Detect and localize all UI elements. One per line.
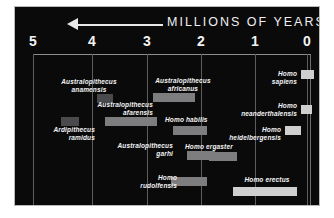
taxon-label: Homo habilis [165,116,237,124]
x-axis-tick-3: 3 [143,33,151,49]
taxon-label: Homo erectus [227,176,307,184]
range-bar [153,93,195,102]
range-bar [61,117,79,126]
taxon-label: Australopithecusafricanus [141,77,225,92]
taxon-label-line1: Homo [215,102,297,110]
x-axis-tick-1: 1 [251,33,259,49]
taxon-label-line1: Ardipithecus [27,126,95,134]
x-axis-tick-4: 4 [88,33,96,49]
taxon-label-line2: sapiens [229,78,297,86]
range-bar [301,105,312,114]
range-bar [209,152,237,161]
x-axis-tick-2: 2 [197,33,205,49]
taxon-label-line1: Homo ergaster [185,143,263,151]
taxon-label: Homosapiens [229,70,297,85]
taxon-label: Australopithecusgarhi [89,142,173,157]
arrow-shaft-icon [77,24,163,26]
taxon-label-line1: Australopithecus [141,77,225,85]
taxon-label-line1: Homo [229,70,297,78]
x-axis-tick-labels: 543210 [15,33,319,53]
taxon-label-line1: Homo [109,174,177,182]
taxon-label-line2: afarensis [69,109,153,117]
chart-header: MILLIONS OF YEARS AGO [15,11,319,33]
taxon-label-line2: garhi [89,150,173,158]
plot-area: AustralopithecusanamensisAustralopithecu… [15,54,320,206]
taxon-label: Homoneanderthalensis [215,102,297,117]
taxon-label-line2: africanus [141,85,225,93]
taxon-label-line1: Homo habilis [165,116,237,124]
range-bar [233,187,297,196]
taxon-label: Ardipithecusramidus [27,126,95,141]
taxon-label-line1: Australopithecus [47,78,131,86]
taxon-label: Homorudolfensis [109,174,177,189]
chart-title: MILLIONS OF YEARS AGO [167,15,320,29]
taxon-label: Homo ergaster [185,143,263,151]
x-axis-tick-5: 5 [29,33,37,49]
taxon-label-line1: Homo [203,126,281,134]
taxon-label-line1: Australopithecus [69,101,153,109]
range-bar [105,117,157,126]
taxon-label: Australopithecusafarensis [69,101,153,116]
taxon-label: Homoheidelbergensis [203,126,281,141]
taxon-label-line2: anamensis [47,86,131,94]
taxon-label-line2: rudolfensis [109,182,177,190]
taxon-label: Australopithecusanamensis [47,78,131,93]
range-bar [173,126,207,135]
taxon-label-line2: ramidus [27,134,95,142]
taxon-label-line1: Homo erectus [227,176,307,184]
range-bar [285,126,301,135]
x-axis-tick-0: 0 [303,33,311,49]
taxon-label-line2: heidelbergensis [203,134,281,142]
hominin-timeline-figure: MILLIONS OF YEARS AGO 543210 Australopit… [0,0,334,218]
range-bar [301,70,314,79]
chart-plate: MILLIONS OF YEARS AGO 543210 Australopit… [14,6,320,206]
taxon-label-line1: Australopithecus [89,142,173,150]
